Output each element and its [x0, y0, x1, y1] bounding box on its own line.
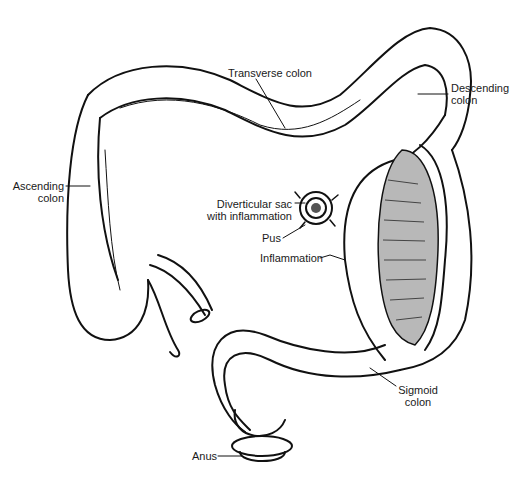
label-ascending-colon: Ascending colon [8, 180, 64, 204]
label-sigmoid-colon: Sigmoid colon [396, 384, 440, 408]
label-diverticular-sac: Diverticular sac with inflammation [200, 198, 292, 222]
label-sigmoid-colon-line1: Sigmoid [396, 384, 440, 396]
colon-diagram: Transverse colon Descending colon Ascend… [0, 0, 513, 477]
label-sigmoid-colon-line2: colon [396, 396, 440, 408]
label-descending-colon-line1: Descending [451, 82, 509, 94]
label-ascending-colon-line1: Ascending [8, 180, 64, 192]
label-pus: Pus [262, 232, 281, 244]
label-transverse-colon: Transverse colon [228, 67, 312, 79]
label-diverticular-sac-line2: with inflammation [200, 210, 292, 222]
label-diverticular-sac-line1: Diverticular sac [200, 198, 292, 210]
label-inflammation: Inflammation [260, 252, 323, 264]
label-descending-colon: Descending colon [451, 82, 509, 106]
label-anus: Anus [192, 450, 217, 462]
label-descending-colon-line2: colon [451, 94, 509, 106]
label-ascending-colon-line2: colon [8, 192, 64, 204]
